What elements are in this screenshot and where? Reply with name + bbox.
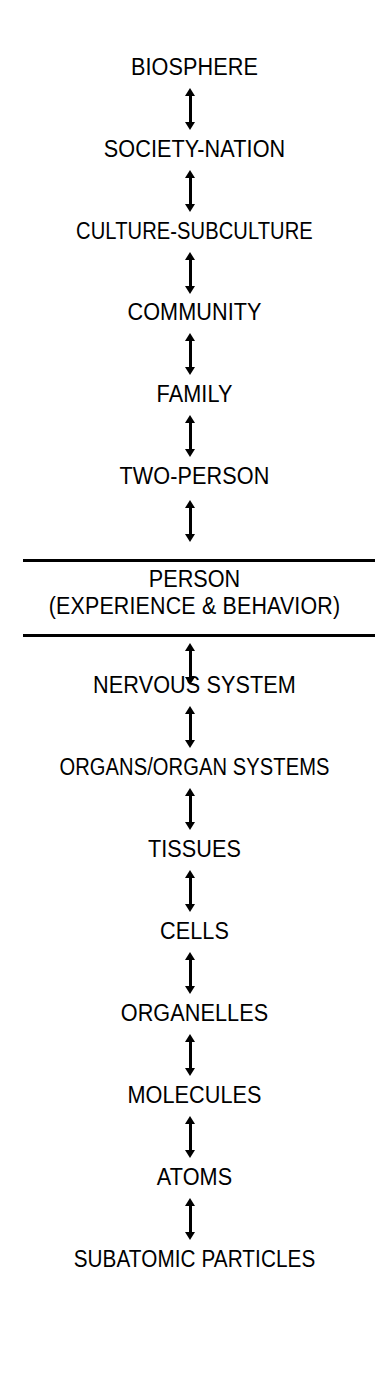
arrow-shaft [189,957,192,989]
level-organelles: ORGANELLES [12,1000,378,1026]
arrowhead-down-icon [185,286,195,294]
level-cells: CELLS [12,918,378,944]
arrow-cells-organelles [184,952,196,994]
arrow-shaft [189,875,192,907]
person-label-primary: PERSON [12,566,378,593]
arrow-tissues-cells [184,870,196,912]
systems-hierarchy-diagram: BIOSPHERE SOCIETY-NATION CULTURE-SUBCULT… [0,0,389,1374]
person-label-secondary: (EXPERIENCE & BEHAVIOR) [14,593,376,620]
arrow-shaft [189,338,192,370]
arrowhead-down-icon [185,740,195,748]
arrow-shaft [189,175,192,207]
level-nervous-system: NERVOUS SYSTEM [12,672,378,698]
level-tissues: TISSUES [12,836,378,862]
arrow-organelles-molecules [184,1034,196,1076]
arrow-culture-community [184,252,196,294]
arrow-nervous-organs [184,706,196,748]
level-culture-subculture: CULTURE-SUBCULTURE [24,218,364,244]
arrowhead-down-icon [185,1150,195,1158]
arrow-shaft [189,1121,192,1153]
arrowhead-down-icon [185,1068,195,1076]
arrow-community-family [184,333,196,375]
arrowhead-down-icon [185,1232,195,1240]
level-family: FAMILY [12,381,378,407]
arrow-shaft [189,711,192,743]
arrowhead-down-icon [185,534,195,542]
arrow-atoms-subatomic [184,1198,196,1240]
level-person: PERSON (EXPERIENCE & BEHAVIOR) [0,566,389,620]
arrowhead-down-icon [185,822,195,830]
person-rule-bottom [23,634,375,637]
arrowhead-down-icon [185,904,195,912]
level-subatomic-particles: SUBATOMIC PARTICLES [19,1246,369,1272]
person-rule-top [23,559,375,562]
arrowhead-down-icon [185,204,195,212]
arrow-shaft [189,420,192,452]
level-biosphere: BIOSPHERE [12,54,378,80]
arrow-shaft [189,1039,192,1071]
arrowhead-down-icon [185,367,195,375]
arrow-shaft [189,505,192,537]
arrow-shaft [189,257,192,289]
level-two-person: TWO-PERSON [12,463,378,489]
arrowhead-down-icon [185,986,195,994]
arrow-shaft [189,93,192,125]
arrowhead-down-icon [185,122,195,130]
level-society-nation: SOCIETY-NATION [12,136,378,162]
level-organs-organ-systems: ORGANS/ORGAN SYSTEMS [24,754,364,780]
arrow-shaft [189,1203,192,1235]
arrow-shaft [189,793,192,825]
arrow-molecules-atoms [184,1116,196,1158]
arrow-biosphere-society [184,88,196,130]
arrowhead-down-icon [185,449,195,457]
arrow-society-culture [184,170,196,212]
level-molecules: MOLECULES [12,1082,378,1108]
level-community: COMMUNITY [12,299,378,325]
arrow-twoperson-person [184,500,196,542]
level-atoms: ATOMS [12,1164,378,1190]
arrow-organs-tissues [184,788,196,830]
arrow-family-twoperson [184,415,196,457]
